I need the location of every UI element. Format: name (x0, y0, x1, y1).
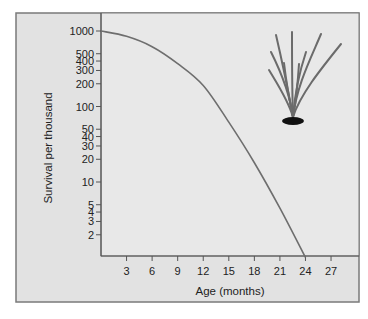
y-tick-label: 100 (76, 101, 94, 113)
y-tick-label: 20 (82, 153, 94, 165)
y-tick-label: 2 (88, 229, 94, 241)
plant-base (282, 117, 304, 125)
x-tick-label: 24 (299, 265, 311, 277)
x-tick-label: 9 (175, 265, 181, 277)
x-tick-label: 15 (223, 265, 235, 277)
y-tick-label: 3 (88, 215, 94, 227)
y-tick-label: 200 (76, 78, 94, 90)
x-tick-label: 6 (149, 265, 155, 277)
y-tick-label: 300 (76, 64, 94, 76)
y-tick-label: 10 (82, 176, 94, 188)
x-tick-label: 12 (197, 265, 209, 277)
x-tick-label: 18 (248, 265, 260, 277)
survivorship-chart: 100050040030020010050403020105432 369121… (0, 0, 368, 319)
x-axis-title: Age (months) (195, 285, 264, 297)
y-axis-title: Survival per thousand (42, 92, 54, 203)
y-tick-label: 1000 (70, 25, 94, 37)
x-tick-label: 21 (274, 265, 286, 277)
plant-leaf (292, 32, 293, 117)
plot-area (101, 13, 359, 256)
y-tick-label: 30 (82, 140, 94, 152)
x-tick-label: 27 (325, 265, 337, 277)
x-tick-label: 3 (123, 265, 129, 277)
